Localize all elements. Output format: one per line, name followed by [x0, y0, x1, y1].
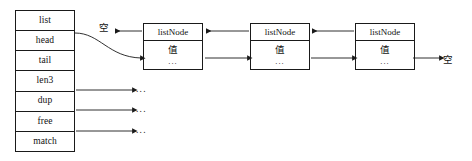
- free-target-ellipsis: ...: [136, 105, 147, 115]
- list-node-more: ...: [380, 57, 389, 66]
- struct-row-tail: tail: [16, 51, 74, 71]
- struct-field-label: free: [37, 117, 52, 127]
- list-node-header: listNode: [251, 24, 309, 41]
- struct-row-list: list: [16, 11, 74, 31]
- list-node-2: listNode 值 ...: [250, 23, 310, 70]
- struct-field-label: match: [33, 137, 57, 147]
- list-node-1: listNode 值 ...: [143, 23, 203, 70]
- struct-row-len: len3: [16, 71, 74, 91]
- head-pointer-arrow: [75, 33, 141, 58]
- list-node-body: 值 ...: [251, 41, 309, 69]
- list-node-header: listNode: [144, 24, 202, 41]
- null-label-right: 空: [443, 55, 453, 65]
- list-node-body: 值 ...: [144, 41, 202, 69]
- null-label-left: 空: [99, 23, 109, 33]
- list-struct-table: list head tail len3 dup free match: [15, 10, 75, 152]
- list-node-value: 值: [380, 45, 390, 55]
- list-node-more: ...: [168, 57, 177, 66]
- struct-field-label: head: [36, 36, 54, 46]
- list-node-3: listNode 值 ...: [355, 23, 415, 70]
- list-node-body: 值 ...: [356, 41, 414, 69]
- list-node-header: listNode: [356, 24, 414, 41]
- struct-field-label: dup: [38, 96, 53, 106]
- struct-field-label: list: [39, 16, 51, 26]
- list-node-more: ...: [275, 57, 284, 66]
- struct-field-label: len3: [37, 76, 54, 86]
- dup-target-ellipsis: ...: [136, 85, 147, 95]
- list-node-value: 值: [275, 45, 285, 55]
- struct-row-match: match: [16, 132, 74, 151]
- struct-field-label: tail: [39, 56, 52, 66]
- struct-row-free: free: [16, 112, 74, 132]
- struct-row-head: head: [16, 31, 74, 51]
- match-target-ellipsis: ...: [136, 126, 147, 136]
- diagram-canvas: list head tail len3 dup free match listN…: [0, 0, 472, 161]
- list-node-value: 值: [168, 45, 178, 55]
- struct-row-dup: dup: [16, 92, 74, 112]
